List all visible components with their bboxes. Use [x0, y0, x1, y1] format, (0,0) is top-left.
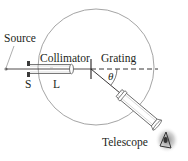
slit-lower-jaw — [27, 72, 30, 77]
lens-label: L — [53, 78, 60, 90]
diffracted-ray — [91, 69, 120, 93]
collimator-lens — [70, 64, 74, 74]
source-label: Source — [4, 32, 36, 44]
source-leader-line — [6, 46, 14, 68]
eye-icon — [155, 127, 179, 153]
spectrometer-diagram: Source Collimator Grating S L θ Telescop… — [0, 0, 188, 161]
slit-label: S — [25, 78, 31, 90]
theta-label: θ — [108, 70, 114, 82]
grating-label: Grating — [101, 52, 136, 65]
collimator-label: Collimator — [40, 52, 90, 64]
telescope — [115, 88, 163, 131]
telescope-label: Telescope — [102, 136, 148, 149]
slit-upper-jaw — [27, 61, 30, 66]
